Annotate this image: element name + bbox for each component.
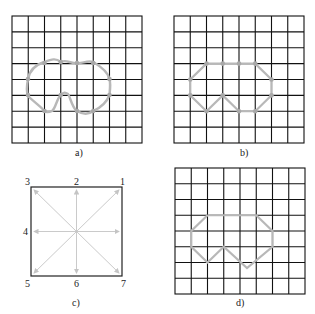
direction-label-7: 7 [121,278,126,289]
direction-label-1: 1 [120,176,125,187]
caption-b: b) [240,147,248,159]
grid-b [174,16,304,143]
caption-a: a) [75,147,83,159]
panel-a [12,16,142,143]
direction-label-2: 2 [74,176,79,187]
polygon-d [191,215,272,268]
direction-label-6: 6 [74,278,79,289]
direction-arrows [34,190,119,273]
figure-canvas: a) b) 1 2 3 4 5 6 7 [0,0,315,314]
direction-label-4: 4 [23,226,28,237]
caption-c: c) [72,297,80,309]
direction-label-3: 3 [25,176,30,187]
panel-c: 1 2 3 4 5 6 7 [23,176,126,289]
polygon-b [190,64,271,112]
grid-a [12,16,142,143]
panel-d [175,168,305,294]
boundary-curve-a [27,59,110,113]
grid-d [175,168,305,294]
panel-b [174,16,304,143]
direction-label-5: 5 [25,278,30,289]
caption-d: d) [236,297,244,309]
